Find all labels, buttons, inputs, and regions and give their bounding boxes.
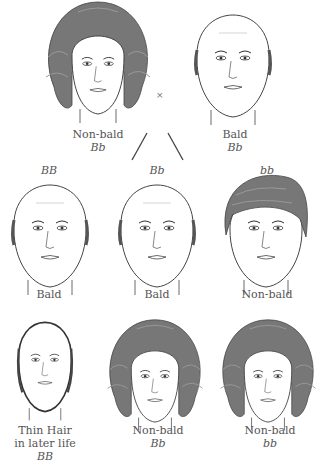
son-2-face-illustration bbox=[117, 180, 197, 290]
daughter-2-genotype: Bb bbox=[118, 437, 198, 450]
daughter-3-face-illustration bbox=[218, 318, 318, 423]
father-face-illustration bbox=[193, 10, 273, 120]
cross-symbol: × bbox=[156, 90, 164, 100]
son-1-phenotype: Bald bbox=[19, 288, 79, 301]
daughter-1-phenotype-line1: Thin Hair bbox=[5, 424, 85, 437]
father-genotype: Bb bbox=[195, 141, 275, 154]
father-label: Bald Bb bbox=[195, 128, 275, 154]
son-1-face-illustration bbox=[10, 180, 90, 290]
daughter-3-genotype: bb bbox=[230, 437, 310, 450]
daughter-3-phenotype: Non-bald bbox=[230, 424, 310, 437]
son-2-genotype: Bb bbox=[137, 164, 177, 177]
mother-face-illustration bbox=[48, 0, 148, 115]
son-2-phenotype: Bald bbox=[127, 288, 187, 301]
daughter-2-label: Non-bald Bb bbox=[118, 424, 198, 450]
daughter-2-phenotype: Non-bald bbox=[118, 424, 198, 437]
daughter-1-phenotype-line2: in later life bbox=[5, 437, 85, 450]
daughter-2-face-illustration bbox=[105, 318, 205, 423]
father-phenotype: Bald bbox=[195, 128, 275, 141]
son-3-face-illustration bbox=[226, 180, 306, 290]
son-1-genotype: BB bbox=[29, 164, 69, 177]
daughter-1-genotype: BB bbox=[5, 450, 85, 463]
daughter-3-label: Non-bald bb bbox=[230, 424, 310, 450]
daughter-1-face-illustration bbox=[10, 318, 80, 423]
offspring-branch-lines bbox=[125, 130, 195, 165]
daughter-1-label: Thin Hair in later life BB bbox=[5, 424, 85, 463]
son-3-phenotype: Non-bald bbox=[232, 288, 302, 301]
son-3-genotype: bb bbox=[247, 164, 287, 177]
